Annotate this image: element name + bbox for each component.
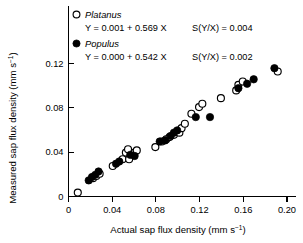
x-tick-label: 0.16 bbox=[234, 205, 252, 215]
data-point-populus bbox=[116, 158, 123, 165]
data-point-platanus bbox=[199, 100, 206, 107]
x-tick-label: 0.04 bbox=[103, 205, 121, 215]
y-axis-title-tail: ) bbox=[7, 52, 18, 55]
data-point-populus bbox=[250, 76, 257, 83]
legend-syx-populus: S(Y/X) = 0.002 bbox=[192, 52, 253, 62]
data-point-populus bbox=[174, 127, 181, 134]
legend-marker-open-circle-icon bbox=[73, 11, 80, 18]
scatter-plot-figure: Measured sap flux density (mm s−1) Actua… bbox=[0, 0, 303, 243]
y-axis-title: Measured sap flux density (mm s−1) bbox=[7, 52, 18, 204]
x-axis-ticks: 00.040.080.120.160.20 bbox=[66, 197, 296, 215]
legend-marker-filled-circle-icon bbox=[73, 40, 80, 47]
data-point-platanus bbox=[217, 95, 224, 102]
x-axis-title-tail: ) bbox=[243, 224, 246, 235]
x-axis-title-text: Actual sap flux density (mm s bbox=[110, 224, 235, 235]
svg-text:Actual sap flux density (mm s−: Actual sap flux density (mm s−1) bbox=[110, 224, 246, 235]
legend-syx-platanus: S(Y/X) = 0.004 bbox=[192, 23, 253, 33]
legend-equation-populus: Y = 0.000 + 0.542 X bbox=[85, 52, 167, 62]
x-tick-label: 0.12 bbox=[191, 205, 209, 215]
chart-svg: Measured sap flux density (mm s−1) Actua… bbox=[0, 0, 303, 243]
y-tick-label: 0.12 bbox=[45, 59, 63, 69]
data-point-populus bbox=[271, 65, 278, 72]
legend-label-populus: Populus bbox=[85, 38, 119, 49]
data-point-populus bbox=[192, 113, 199, 120]
legend-equation-platanus: Y = 0.001 + 0.569 X bbox=[85, 23, 167, 33]
data-point-platanus bbox=[181, 120, 188, 127]
x-axis-title: Actual sap flux density (mm s−1) bbox=[110, 224, 246, 235]
data-point-platanus bbox=[74, 189, 81, 196]
y-tick-label: 0 bbox=[58, 192, 63, 202]
y-tick-label: 0.04 bbox=[45, 147, 63, 157]
data-point-populus bbox=[206, 113, 213, 120]
data-point-populus bbox=[131, 152, 138, 159]
svg-text:Measured sap flux density (mm: Measured sap flux density (mm s−1) bbox=[7, 52, 18, 204]
x-tick-label: 0 bbox=[66, 205, 71, 215]
data-point-populus bbox=[235, 84, 242, 91]
chart-legend: Platanus Y = 0.001 + 0.569 X S(Y/X) = 0.… bbox=[73, 9, 253, 62]
y-axis-title-text: Measured sap flux density (mm s bbox=[7, 63, 18, 204]
data-point-populus bbox=[243, 80, 250, 87]
y-tick-label: 0.08 bbox=[45, 103, 63, 113]
data-point-populus bbox=[95, 168, 102, 175]
x-tick-label: 0.20 bbox=[278, 205, 296, 215]
y-axis-ticks: 00.040.080.12 bbox=[45, 59, 73, 202]
legend-label-platanus: Platanus bbox=[85, 9, 122, 20]
x-tick-label: 0.08 bbox=[147, 205, 165, 215]
